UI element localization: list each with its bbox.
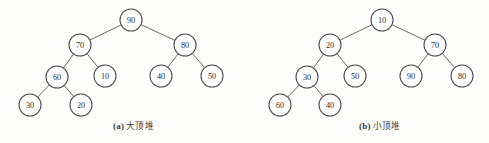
tree-node: 60 — [269, 94, 291, 116]
tree-node: 70 — [424, 34, 446, 56]
tree-node-label: 70 — [431, 41, 439, 50]
tree-node: 30 — [19, 94, 41, 116]
tree-node: 80 — [451, 65, 473, 87]
tree-edge — [192, 53, 205, 67]
tree-node: 10 — [371, 9, 393, 31]
tree-node: 20 — [70, 94, 92, 116]
tree-node: 90 — [400, 65, 422, 87]
tree-node: 10 — [94, 65, 116, 87]
tree-node-label: 90 — [127, 16, 135, 25]
tree-node-label: 50 — [208, 72, 216, 81]
tree-node-label: 20 — [77, 101, 85, 110]
tree-edge — [392, 25, 425, 41]
tree-node: 60 — [46, 66, 68, 88]
tree-node: 70 — [69, 34, 91, 56]
tree-node-label: 30 — [303, 73, 311, 82]
tree-node-label: 20 — [326, 41, 334, 50]
caption-a-text: 大顶堆 — [126, 121, 154, 131]
tree-edge — [141, 25, 175, 41]
tree-node: 80 — [174, 34, 196, 56]
tree-node-label: 30 — [26, 101, 34, 110]
tree-node: 40 — [150, 65, 172, 87]
tree-node: 40 — [319, 94, 341, 116]
tree-edge — [337, 54, 348, 68]
tree-edge — [63, 54, 73, 68]
binary-heap-diagram-canvas: 907080601040503020102070305090806040 — [0, 0, 489, 143]
caption-b-tag: (b) — [359, 121, 371, 131]
tree-node-label: 10 — [101, 72, 109, 81]
tree-node-label: 80 — [181, 41, 189, 50]
tree-node-label: 10 — [378, 16, 386, 25]
caption-max-heap: (a)大顶堆 — [113, 119, 154, 131]
tree-edge — [87, 54, 98, 68]
tree-node: 20 — [319, 34, 341, 56]
tree-node-label: 80 — [458, 72, 466, 81]
tree-edge — [64, 85, 74, 96]
tree-node-label: 50 — [351, 72, 359, 81]
heap-figure: 907080601040503020102070305090806040 (a)… — [0, 0, 489, 143]
tree-edge — [38, 85, 50, 97]
tree-node-label: 90 — [407, 72, 415, 81]
tree-edge — [442, 53, 455, 67]
tree-node: 30 — [296, 66, 318, 88]
tree-edge — [90, 25, 121, 40]
tree-node-label: 70 — [76, 41, 84, 50]
tree-node: 90 — [120, 9, 142, 31]
tree-edge — [340, 25, 372, 40]
tree-node: 50 — [201, 65, 223, 87]
tree-node-label: 40 — [326, 101, 334, 110]
nodes-layer: 907080601040503020102070305090806040 — [19, 9, 473, 116]
tree-edge — [288, 85, 300, 97]
tree-edge — [314, 86, 323, 97]
tree-node-label: 60 — [53, 73, 61, 82]
tree-node: 50 — [344, 65, 366, 87]
tree-edge — [313, 54, 323, 68]
caption-min-heap: (b)小顶堆 — [359, 119, 400, 131]
tree-node-label: 60 — [276, 101, 284, 110]
caption-b-text: 小顶堆 — [373, 121, 401, 131]
caption-a-tag: (a) — [113, 121, 124, 131]
tree-edge — [418, 54, 429, 68]
tree-edge — [168, 54, 179, 68]
tree-node-label: 40 — [157, 72, 165, 81]
